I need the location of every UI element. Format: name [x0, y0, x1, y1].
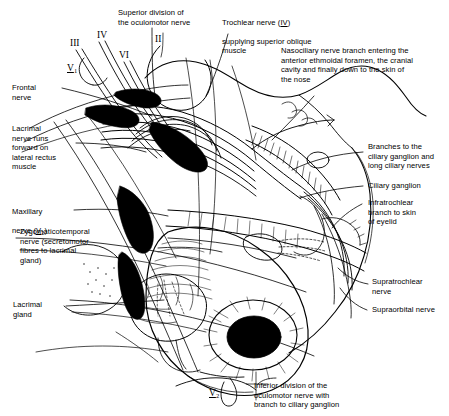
leader-supratrochlear	[338, 268, 368, 284]
label-branches-to-ciliary-ganglion: Branches to the ciliary ganglion and lon…	[368, 142, 448, 171]
maxillary-line1: Maxillary	[12, 207, 42, 216]
marker-IV-text: IV	[97, 30, 107, 40]
trochlear-line1-b: )	[288, 18, 291, 27]
leader-ciliary-ganglion	[300, 186, 363, 198]
leader-lacrimal-nerve	[76, 143, 146, 152]
label-zygomaticotemporal-nerve: Zygomaticotemporal nerve (secretomotor f…	[20, 227, 160, 265]
marker-V1-subscript: 1	[74, 67, 77, 74]
marker-cranial-nerve-III: III	[70, 38, 80, 48]
anatomical-figure: Superior division of the oculomotor nerv…	[0, 0, 449, 416]
label-lacrimal-nerve: Lacrimal nerve runs forward on lateral r…	[12, 124, 78, 172]
label-superior-division-oculomotor: Superior division of the oculomotor nerv…	[118, 8, 222, 27]
leader-supraorbital	[340, 288, 367, 310]
label-nasociliary-nerve: Nasociliary nerve branch entering the an…	[281, 46, 447, 84]
marker-cranial-nerve-VI: VI	[119, 50, 129, 60]
marker-V2-subscript: 2	[216, 392, 219, 399]
marker-cranial-nerve-IV: IV	[97, 30, 107, 40]
marker-V1-text: V	[67, 63, 74, 73]
label-supraorbital-nerve: Supraorbital nerve	[372, 305, 448, 315]
trochlear-numeral: IV	[280, 18, 287, 27]
leader-lacrimal-gland	[66, 300, 164, 306]
marker-V2-text: V	[209, 388, 216, 398]
marker-cranial-nerve-V1: V1	[67, 63, 77, 74]
marker-II-text: II	[155, 34, 161, 44]
leader-zygomaticotemporal	[158, 247, 222, 252]
label-frontal-nerve: Frontal nerve	[12, 83, 60, 102]
marker-cranial-nerve-V2-bottom: V2	[209, 388, 219, 399]
marker-III-text: III	[70, 38, 80, 48]
marker-VI-text: VI	[119, 50, 129, 60]
label-supratrochlear-nerve: Supratrochlear nerve	[372, 277, 446, 296]
label-inferior-division-oculomotor: Inferior division of the oculomotor nerv…	[254, 381, 372, 410]
leader-nasociliary	[272, 96, 314, 140]
label-lacrimal-gland: Lacrimal gland	[13, 300, 73, 319]
leader-maxillary	[74, 209, 168, 216]
trochlear-line1-a: Trochlear nerve (	[222, 18, 280, 27]
marker-cranial-nerve-II: II	[155, 34, 161, 44]
label-ciliary-ganglion: Ciliary ganglion	[368, 181, 448, 191]
label-infratrochlear-branch: Infratrochlear branch to skin of eyelid	[368, 198, 444, 227]
leader-frontal	[62, 88, 152, 116]
leader-infratrochlear	[332, 204, 362, 228]
leader-branches-ciliary	[292, 152, 363, 170]
